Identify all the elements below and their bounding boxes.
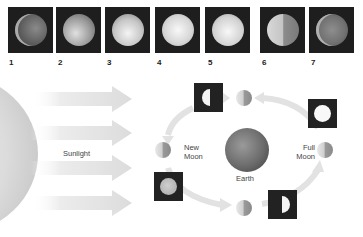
new-moon-disc-icon	[160, 178, 177, 195]
sunlight-label: Sunlight	[63, 149, 90, 158]
half-moon-right-icon	[274, 196, 290, 213]
full-moon-icon	[317, 142, 333, 158]
phase-full-box	[308, 99, 337, 128]
moon-bottom-icon	[236, 200, 252, 216]
half-moon-left-icon	[202, 89, 218, 106]
phase-first-quarter-box	[194, 83, 223, 112]
phase-new-box	[154, 172, 183, 201]
moon-top-icon	[236, 90, 252, 106]
full-moon-disc-icon	[314, 105, 331, 122]
new-moon-label: New Moon	[184, 143, 203, 161]
full-moon-label: Full Moon	[289, 143, 315, 161]
earth-icon	[225, 128, 269, 172]
phase-last-quarter-box	[268, 190, 297, 219]
new-moon-icon	[155, 142, 171, 158]
earth-label: Earth	[236, 174, 254, 183]
